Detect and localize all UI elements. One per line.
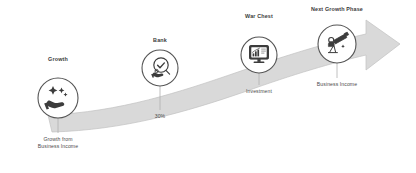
node-title-war-chest: War Chest bbox=[245, 13, 273, 20]
node-circle-growth bbox=[38, 78, 78, 118]
node-next-growth-phase-icon-group[interactable] bbox=[318, 25, 356, 63]
node-sub-growth-line2: Business Income bbox=[38, 143, 78, 150]
node-title-next-growth-phase: Next Growth Phase bbox=[311, 6, 363, 13]
diagram-canvas: Growth Growth from Business Income Bank … bbox=[0, 0, 416, 173]
node-growth-icon-group[interactable] bbox=[38, 78, 78, 118]
node-sub-war-chest: Investment bbox=[246, 88, 272, 95]
node-sub-next-growth-phase: Business Income bbox=[317, 81, 357, 88]
node-circle-next-growth-phase bbox=[318, 25, 356, 63]
node-title-growth: Growth bbox=[48, 56, 68, 63]
node-sub-bank: 30% bbox=[155, 113, 166, 120]
node-war-chest-icon-group[interactable] bbox=[241, 37, 277, 73]
node-title-bank: Bank bbox=[153, 37, 167, 44]
node-bank-icon-group[interactable] bbox=[142, 50, 178, 86]
